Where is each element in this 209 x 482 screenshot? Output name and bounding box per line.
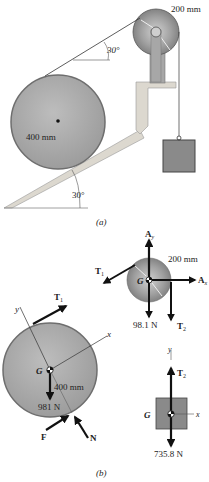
block-fbd: y T2 x 735.8 N G [144,345,200,459]
drum-fbd: y x T1 981 N 400 mm F N G [3,292,111,443]
drum-x-label: x [106,329,111,339]
block-t2-label: T2 [177,368,186,379]
pulley-weight-label: 98.1 N [133,320,158,330]
pulley-pin [151,27,161,37]
t2-label: T2 [177,321,186,332]
normal-arrow [75,417,88,438]
friction-arrow [46,416,68,430]
t1-label: T1 [95,266,104,277]
bracket-arm [151,30,161,82]
cable-angle-label: 30° [106,45,120,55]
friction-label: F [41,432,47,442]
drum-fbd-radius-label: 400 mm [54,382,84,392]
block-x-label: x [195,410,200,419]
drum-radius-label: 400 mm [26,132,56,142]
drum-weight-label: 981 N [38,402,61,412]
drum-t1-arrow [33,306,66,324]
drum-y-label: y [14,304,19,314]
drum-center [56,119,60,123]
drum-t1-label: T1 [54,292,63,303]
normal-label: N [90,433,97,443]
pulley-fbd: Ay Ax T1 98.1 N T2 G 200 mm [95,229,208,332]
diagram-canvas: 30° 200 mm 400 mm 30° (a) Ay Ax T1 98.1 … [0,0,209,482]
hanging-block [163,140,195,172]
block-g-label: G [144,410,151,420]
cable-incline [45,18,140,76]
pulley-fbd-radius-label: 200 mm [168,254,198,264]
caption-b: (b) [96,468,107,478]
figure-a: 30° 200 mm 400 mm 30° (a) [4,4,201,227]
block-hook [177,136,181,140]
caption-a: (a) [96,217,107,227]
ay-label: Ay [145,229,155,240]
drum-g-label: G [36,366,43,376]
block-y-label: y [167,345,172,354]
incline-angle-label: 30° [72,190,85,200]
block-weight-label: 735.8 N [154,449,184,459]
pulley-g-label: G [137,276,144,286]
ax-label: Ax [198,275,208,286]
pulley-radius-label: 200 mm [171,4,201,14]
support-wall [136,82,176,134]
